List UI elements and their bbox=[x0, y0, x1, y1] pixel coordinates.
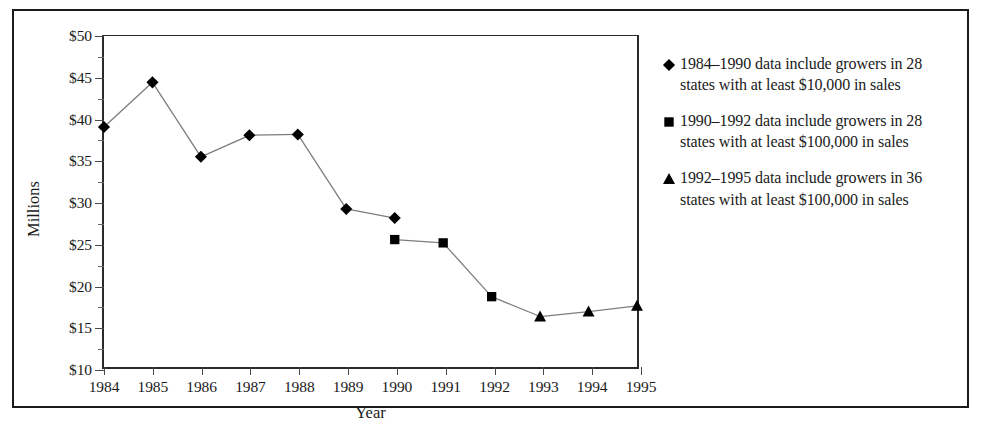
x-axis-tick-label: 1989 bbox=[333, 378, 364, 396]
y-axis-title: Millions bbox=[24, 181, 44, 237]
data-point-marker bbox=[340, 203, 352, 215]
y-axis-tick bbox=[95, 203, 104, 204]
y-axis-tick bbox=[95, 370, 104, 371]
x-axis-tick bbox=[495, 367, 496, 375]
x-axis-tick-label: 1985 bbox=[138, 378, 169, 396]
legend-entry: 1992–1995 data include growers in 36 sta… bbox=[662, 167, 958, 209]
data-line-segment bbox=[589, 306, 637, 312]
data-point-marker bbox=[195, 151, 207, 163]
x-axis-tick-label: 1988 bbox=[284, 378, 315, 396]
data-line-segment bbox=[346, 209, 394, 218]
data-point-marker bbox=[487, 292, 496, 301]
data-line-segment bbox=[395, 240, 443, 243]
y-axis-tick-label: $40 bbox=[69, 111, 92, 129]
plot-area: $10$15$20$25$30$35$40$45$50 198419851986… bbox=[102, 35, 639, 369]
figure-container: Millions $10$15$20$25$30$35$40$45$50 198… bbox=[12, 9, 969, 408]
square-marker-icon bbox=[662, 115, 680, 129]
legend-entry: 1984–1990 data include growers in 28 sta… bbox=[662, 53, 958, 95]
data-line-segment bbox=[201, 135, 249, 157]
data-point-marker bbox=[292, 128, 304, 140]
y-axis-tick-label: $10 bbox=[69, 361, 92, 379]
legend-entry: 1990–1992 data include growers in 28 sta… bbox=[662, 110, 958, 152]
data-series-layer bbox=[104, 36, 637, 367]
x-axis-tick bbox=[641, 367, 642, 375]
data-point-marker bbox=[389, 212, 401, 224]
x-axis-tick-label: 1994 bbox=[577, 378, 608, 396]
x-axis-tick-label: 1984 bbox=[89, 378, 120, 396]
x-axis-title: Year bbox=[355, 403, 385, 423]
x-axis-tick-label: 1991 bbox=[430, 378, 461, 396]
legend-entry-label: 1984–1990 data include growers in 28 sta… bbox=[680, 53, 958, 95]
y-axis-tick-label: $30 bbox=[69, 194, 92, 212]
x-axis-tick-label: 1990 bbox=[382, 378, 413, 396]
y-axis-tick-label: $20 bbox=[69, 278, 92, 296]
x-axis-tick bbox=[592, 367, 593, 375]
data-line-segment bbox=[443, 243, 491, 297]
y-axis-tick bbox=[95, 245, 104, 246]
data-line-segment bbox=[152, 82, 200, 156]
x-axis-tick bbox=[446, 367, 447, 375]
y-axis-tick-label: $35 bbox=[69, 152, 92, 170]
data-point-marker bbox=[439, 238, 448, 247]
y-axis-tick bbox=[95, 36, 104, 37]
x-axis-tick bbox=[299, 367, 300, 375]
x-axis-tick-label: 1993 bbox=[528, 378, 559, 396]
x-axis-tick bbox=[250, 367, 251, 375]
data-point-marker bbox=[243, 129, 255, 141]
x-axis-tick bbox=[202, 367, 203, 375]
y-axis-tick-label: $50 bbox=[69, 27, 92, 45]
legend-entry-label: 1990–1992 data include growers in 28 sta… bbox=[680, 110, 958, 152]
data-line-segment bbox=[540, 312, 588, 317]
x-axis-tick-label: 1995 bbox=[626, 378, 657, 396]
y-axis-tick bbox=[95, 78, 104, 79]
data-line-segment bbox=[492, 297, 540, 317]
y-axis-tick-label: $15 bbox=[69, 319, 92, 337]
y-axis-tick-label: $25 bbox=[69, 236, 92, 254]
data-line-segment bbox=[104, 82, 152, 127]
y-axis-tick bbox=[95, 287, 104, 288]
x-axis-tick bbox=[348, 367, 349, 375]
x-axis-tick bbox=[543, 367, 544, 375]
x-axis-tick bbox=[104, 367, 105, 375]
y-axis-tick bbox=[95, 120, 104, 121]
legend-entry-label: 1992–1995 data include growers in 36 sta… bbox=[680, 167, 958, 209]
triangle-marker-icon bbox=[662, 172, 680, 186]
x-axis-tick bbox=[153, 367, 154, 375]
data-point-marker bbox=[631, 300, 643, 311]
data-line-segment bbox=[249, 134, 297, 135]
x-axis-tick bbox=[397, 367, 398, 375]
y-axis-tick-label: $45 bbox=[69, 69, 92, 87]
diamond-marker-icon bbox=[662, 58, 680, 72]
y-axis-tick bbox=[95, 328, 104, 329]
data-point-marker bbox=[390, 235, 399, 244]
x-axis-tick-label: 1992 bbox=[479, 378, 510, 396]
data-line-segment bbox=[298, 134, 346, 208]
x-axis-tick-label: 1987 bbox=[235, 378, 266, 396]
chart-legend: 1984–1990 data include growers in 28 sta… bbox=[662, 53, 958, 225]
x-axis-tick-label: 1986 bbox=[186, 378, 217, 396]
y-axis-tick bbox=[95, 161, 104, 162]
